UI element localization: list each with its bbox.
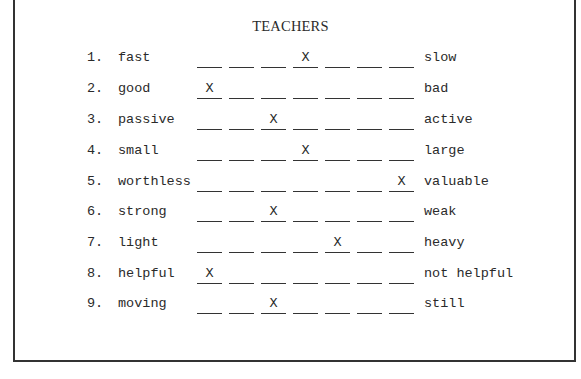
right-anchor-word: slow bbox=[424, 49, 456, 67]
scale-item-row: 8.helpfulXnot helpful bbox=[0, 265, 581, 287]
rating-blank[interactable] bbox=[389, 203, 414, 222]
rating-blank[interactable] bbox=[325, 265, 350, 284]
rating-blank[interactable] bbox=[229, 203, 254, 222]
rating-scale: X bbox=[197, 295, 419, 315]
rating-scale: X bbox=[197, 80, 419, 100]
scale-item-row: 2.goodXbad bbox=[0, 80, 581, 102]
rating-blank[interactable] bbox=[357, 111, 382, 130]
rating-blank[interactable] bbox=[229, 49, 254, 68]
rating-blank[interactable] bbox=[357, 49, 382, 68]
rating-blank[interactable] bbox=[293, 80, 318, 99]
rating-blank[interactable] bbox=[261, 49, 286, 68]
rating-blank-marked[interactable]: X bbox=[261, 295, 286, 314]
rating-blank-marked[interactable]: X bbox=[261, 111, 286, 130]
rating-blank[interactable] bbox=[357, 265, 382, 284]
left-anchor-word: strong bbox=[118, 203, 167, 221]
rating-blank[interactable] bbox=[293, 111, 318, 130]
rating-blank[interactable] bbox=[197, 142, 222, 161]
rating-blank-marked[interactable]: X bbox=[197, 265, 222, 284]
rating-blank[interactable] bbox=[389, 295, 414, 314]
rating-blank-marked[interactable]: X bbox=[325, 234, 350, 253]
rating-blank[interactable] bbox=[197, 234, 222, 253]
rating-blank[interactable] bbox=[229, 265, 254, 284]
rating-blank[interactable] bbox=[389, 49, 414, 68]
rating-blank-marked[interactable]: X bbox=[293, 49, 318, 68]
rating-blank-marked[interactable]: X bbox=[197, 80, 222, 99]
rating-scale: X bbox=[197, 203, 419, 223]
left-anchor-word: good bbox=[118, 80, 150, 98]
rating-blank[interactable] bbox=[325, 111, 350, 130]
rating-blank[interactable] bbox=[389, 234, 414, 253]
rating-blank[interactable] bbox=[229, 173, 254, 192]
rating-blank[interactable] bbox=[229, 234, 254, 253]
scale-item-row: 1.fastXslow bbox=[0, 49, 581, 71]
item-number: 8. bbox=[87, 265, 103, 283]
right-anchor-word: not helpful bbox=[424, 265, 513, 283]
rating-blank[interactable] bbox=[197, 173, 222, 192]
right-anchor-word: heavy bbox=[424, 234, 465, 252]
rating-blank[interactable] bbox=[357, 80, 382, 99]
rating-blank[interactable] bbox=[293, 234, 318, 253]
rating-blank[interactable] bbox=[261, 80, 286, 99]
rating-blank[interactable] bbox=[357, 173, 382, 192]
rating-blank[interactable] bbox=[293, 265, 318, 284]
rating-scale: X bbox=[197, 265, 419, 285]
rating-blank[interactable] bbox=[389, 142, 414, 161]
item-number: 6. bbox=[87, 203, 103, 221]
rating-blank[interactable] bbox=[261, 265, 286, 284]
rating-scale: X bbox=[197, 142, 419, 162]
left-anchor-word: passive bbox=[118, 111, 175, 129]
item-number: 5. bbox=[87, 173, 103, 191]
scale-item-row: 4.smallXlarge bbox=[0, 142, 581, 164]
rating-blank[interactable] bbox=[325, 142, 350, 161]
rating-blank-marked[interactable]: X bbox=[389, 173, 414, 192]
right-anchor-word: large bbox=[424, 142, 465, 160]
rating-blank[interactable] bbox=[325, 203, 350, 222]
scale-item-row: 9.movingXstill bbox=[0, 295, 581, 317]
right-anchor-word: active bbox=[424, 111, 473, 129]
rating-blank[interactable] bbox=[325, 80, 350, 99]
rating-blank[interactable] bbox=[229, 142, 254, 161]
rating-blank[interactable] bbox=[389, 265, 414, 284]
right-anchor-word: still bbox=[424, 295, 465, 313]
scale-item-row: 6.strongXweak bbox=[0, 203, 581, 225]
rating-blank[interactable] bbox=[261, 173, 286, 192]
rating-blank[interactable] bbox=[229, 80, 254, 99]
rating-blank[interactable] bbox=[357, 203, 382, 222]
rating-blank[interactable] bbox=[293, 173, 318, 192]
rating-blank[interactable] bbox=[197, 203, 222, 222]
left-anchor-word: small bbox=[118, 142, 159, 160]
left-anchor-word: helpful bbox=[118, 265, 175, 283]
rating-blank[interactable] bbox=[325, 295, 350, 314]
rating-blank[interactable] bbox=[197, 111, 222, 130]
rating-blank[interactable] bbox=[357, 234, 382, 253]
rating-blank-marked[interactable]: X bbox=[293, 142, 318, 161]
rating-blank[interactable] bbox=[357, 142, 382, 161]
rating-scale: X bbox=[197, 111, 419, 131]
rating-blank[interactable] bbox=[357, 295, 382, 314]
rating-blank[interactable] bbox=[229, 295, 254, 314]
rating-blank[interactable] bbox=[293, 295, 318, 314]
rating-blank[interactable] bbox=[261, 142, 286, 161]
item-number: 4. bbox=[87, 142, 103, 160]
left-anchor-word: moving bbox=[118, 295, 167, 313]
rating-blank[interactable] bbox=[293, 203, 318, 222]
rating-blank[interactable] bbox=[325, 49, 350, 68]
right-anchor-word: valuable bbox=[424, 173, 489, 191]
item-number: 3. bbox=[87, 111, 103, 129]
rating-blank-marked[interactable]: X bbox=[261, 203, 286, 222]
item-number: 7. bbox=[87, 234, 103, 252]
rating-blank[interactable] bbox=[389, 111, 414, 130]
left-anchor-word: worthless bbox=[118, 173, 191, 191]
rating-blank[interactable] bbox=[197, 295, 222, 314]
rating-scale: X bbox=[197, 173, 419, 193]
rating-blank[interactable] bbox=[325, 173, 350, 192]
rating-blank[interactable] bbox=[229, 111, 254, 130]
scale-item-row: 7.lightXheavy bbox=[0, 234, 581, 256]
item-number: 2. bbox=[87, 80, 103, 98]
rating-blank[interactable] bbox=[389, 80, 414, 99]
rating-blank[interactable] bbox=[261, 234, 286, 253]
rating-blank[interactable] bbox=[197, 49, 222, 68]
left-anchor-word: fast bbox=[118, 49, 150, 67]
scale-item-row: 3.passiveXactive bbox=[0, 111, 581, 133]
